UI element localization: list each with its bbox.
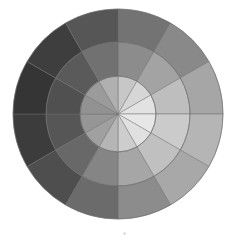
color-wheel-figure (0, 0, 238, 249)
color-wheel-svg (0, 0, 238, 249)
sector-group (13, 9, 223, 219)
bottom-speck-marker (123, 232, 126, 235)
